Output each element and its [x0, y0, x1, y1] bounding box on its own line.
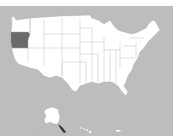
us-map[interactable]	[0, 6, 173, 136]
state-alaska[interactable]	[44, 107, 60, 124]
alaska-panhandle	[58, 124, 66, 133]
contiguous-us[interactable]	[11, 15, 160, 96]
alaska-aleutians	[34, 124, 46, 132]
us-map-panel[interactable]	[0, 6, 173, 136]
state-washington[interactable]	[11, 16, 30, 32]
territory-puerto-rico[interactable]	[116, 130, 122, 132]
map-title: United States	[0, 0, 6, 1]
state-hawaii[interactable]	[80, 127, 91, 133]
state-oregon[interactable]	[11, 32, 30, 48]
